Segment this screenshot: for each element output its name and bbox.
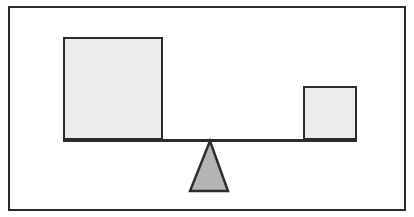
balance-scale-diagram bbox=[0, 0, 414, 217]
small-square-weight bbox=[303, 86, 357, 140]
figure-canvas: Balance scale with two weights on a beam… bbox=[0, 0, 414, 217]
triangular-fulcrum bbox=[186, 137, 232, 195]
fulcrum-triangle-shape bbox=[190, 141, 228, 191]
large-square-weight bbox=[63, 37, 163, 140]
